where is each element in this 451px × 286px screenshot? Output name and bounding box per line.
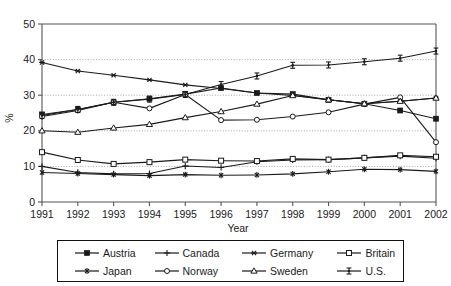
data-series-layer <box>39 48 439 179</box>
series-norway <box>40 92 439 145</box>
series-japan <box>40 166 438 178</box>
britain-marker-icon <box>336 246 362 260</box>
y-tick-label: 40 <box>23 53 35 65</box>
x-tick-label: 1996 <box>209 208 233 220</box>
legend-label-germany: Germany <box>267 246 313 260</box>
sweden-marker-icon <box>241 264 267 278</box>
y-tick-label: 50 <box>23 18 35 30</box>
gridlines <box>42 60 436 167</box>
axis-ticks <box>38 24 436 206</box>
y-tick-label: 10 <box>23 160 35 172</box>
x-tick-label: 1992 <box>66 208 90 220</box>
legend-row-2: Japan Norway Sweden U.S. <box>58 262 403 280</box>
series-sweden <box>39 92 439 134</box>
legend-label-us: U.S. <box>362 264 385 278</box>
legend-item-canada[interactable]: Canada <box>150 244 237 262</box>
y-axis-title: % <box>3 113 15 122</box>
x-tick-label: 1993 <box>102 208 126 220</box>
series-germany <box>39 60 439 105</box>
chart-legend: Austria Canada Germany Britain Japan <box>57 240 404 282</box>
norway-marker-icon <box>154 264 180 278</box>
legend-label-norway: Norway <box>180 264 219 278</box>
legend-item-sweden[interactable]: Sweden <box>237 262 332 280</box>
x-tick-label: 1991 <box>30 208 54 220</box>
y-tick-label: 20 <box>23 124 35 136</box>
austria-marker-icon <box>74 246 100 260</box>
x-axis-title: Year <box>227 222 249 234</box>
germany-marker-icon <box>241 246 267 260</box>
x-tick-label: 2001 <box>389 208 413 220</box>
legend-item-japan[interactable]: Japan <box>58 262 150 280</box>
x-tick-label: 2000 <box>353 208 377 220</box>
x-tick-label: 1995 <box>174 208 198 220</box>
legend-label-japan: Japan <box>100 264 132 278</box>
canada-marker-icon <box>154 246 180 260</box>
legend-label-canada: Canada <box>180 246 220 260</box>
x-tick-label: 2002 <box>424 208 448 220</box>
legend-label-britain: Britain <box>362 246 395 260</box>
legend-item-britain[interactable]: Britain <box>332 244 403 262</box>
series-britain <box>40 150 439 167</box>
legend-item-norway[interactable]: Norway <box>150 262 237 280</box>
x-tick-label: 1997 <box>245 208 269 220</box>
legend-label-sweden: Sweden <box>267 264 308 278</box>
x-axis-tick-labels: 1991199219931994199519961997199819992000… <box>30 208 448 220</box>
y-axis-tick-labels: 01020304050 <box>23 18 35 208</box>
legend-row-1: Austria Canada Germany Britain <box>58 244 403 262</box>
y-tick-label: 0 <box>29 196 35 208</box>
line-chart-figure: 01020304050 1991199219931994199519961997… <box>0 0 451 286</box>
x-tick-label: 1999 <box>317 208 341 220</box>
legend-item-us[interactable]: U.S. <box>332 262 403 280</box>
y-tick-label: 30 <box>23 89 35 101</box>
x-tick-label: 1998 <box>281 208 305 220</box>
legend-item-germany[interactable]: Germany <box>237 244 332 262</box>
x-tick-label: 1994 <box>138 208 162 220</box>
legend-label-austria: Austria <box>100 246 136 260</box>
japan-marker-icon <box>74 264 100 278</box>
legend-item-austria[interactable]: Austria <box>58 244 150 262</box>
us-marker-icon <box>336 264 362 278</box>
